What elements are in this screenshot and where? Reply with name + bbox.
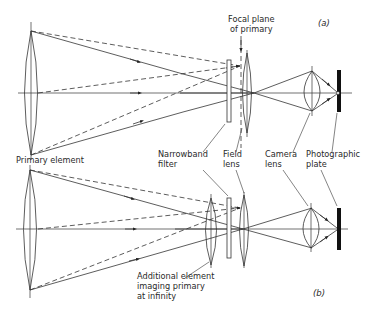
panel-b: Additional element imaging primary at in…: [16, 165, 348, 301]
photographic-plate-b: [337, 208, 341, 250]
primary-element-label: Primary element: [16, 155, 85, 165]
primary-element-lens-a: [25, 22, 38, 160]
narrowband-label-1: Narrowband: [158, 149, 208, 159]
panel-b-tag: (b): [313, 288, 325, 298]
optical-layout-diagram: Focal plane of primary (a) Primary eleme…: [0, 0, 367, 314]
additional-element-lens-b: [206, 194, 217, 268]
panel-a-tag: (a): [318, 18, 330, 28]
photographic-plate-label-2: plate: [306, 159, 327, 169]
narrowband-filter-a: [227, 60, 231, 122]
photographic-plate-label-1: Photographic: [306, 149, 360, 159]
additional-element-label-1: Additional element: [137, 271, 215, 281]
shared-labels: Primary element Narrowband filter Field …: [16, 149, 360, 169]
panel-a: Focal plane of primary (a): [18, 14, 352, 160]
narrowband-filter-b: [227, 198, 231, 258]
field-lens-a: [243, 50, 252, 137]
camera-lens-label-2: lens: [265, 159, 282, 169]
narrowband-label-2: filter: [158, 159, 178, 169]
focal-plane-label-2: of primary: [230, 24, 273, 34]
photographic-plate-a: [337, 70, 341, 112]
focal-plane-label-1: Focal plane: [228, 14, 275, 24]
additional-element-label-3: at infinity: [137, 291, 176, 301]
additional-element-label-2: imaging primary: [137, 281, 205, 291]
field-lens-label-1: Field: [223, 149, 242, 159]
camera-lens-label-1: Camera: [265, 149, 297, 159]
primary-element-lens-b: [24, 165, 37, 298]
field-lens-label-2: lens: [223, 159, 240, 169]
